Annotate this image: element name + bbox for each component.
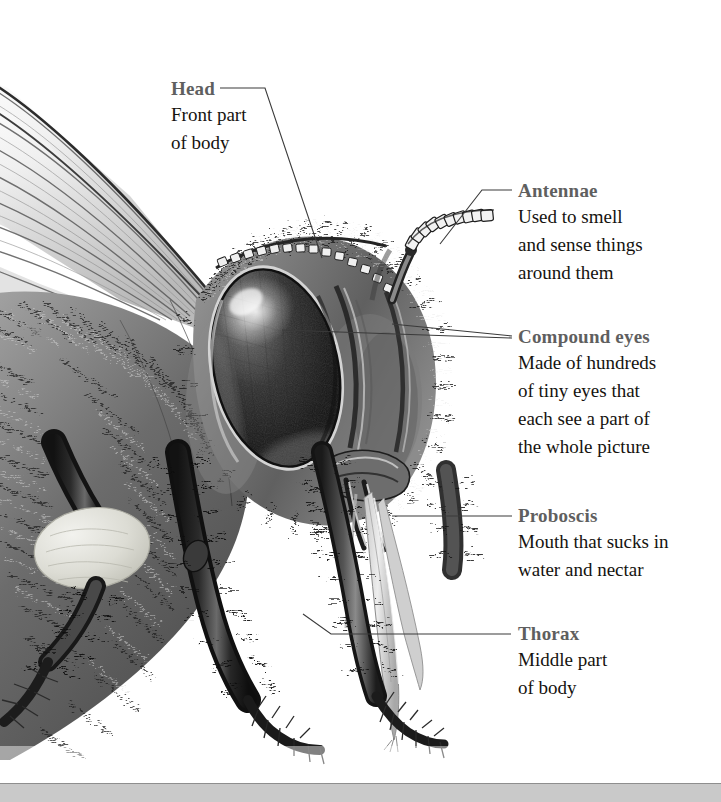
callout-thorax-line-2: of body [518, 674, 607, 702]
callout-proboscis-line-1: Mouth that sucks in [518, 528, 668, 556]
callout-compound-eyes-line-4: the whole picture [518, 433, 656, 461]
callout-head: Head Front part of body [171, 76, 246, 157]
callout-proboscis: Proboscis Mouth that sucks in water and … [518, 503, 668, 584]
bee-drawing-group [0, 66, 500, 782]
diagram-page: Head Front part of body Antennae Used to… [0, 0, 721, 802]
callout-proboscis-heading: Proboscis [518, 503, 668, 528]
callout-head-line-2: of body [171, 129, 246, 157]
callout-head-line-1: Front part [171, 101, 246, 129]
callout-proboscis-body: Mouth that sucks in water and nectar [518, 528, 668, 584]
callout-compound-eyes-heading: Compound eyes [518, 324, 656, 349]
callout-proboscis-line-2: water and nectar [518, 556, 668, 584]
callout-antennae-heading: Antennae [518, 178, 643, 203]
bee-head-illustration [0, 0, 500, 782]
callout-thorax-heading: Thorax [518, 621, 607, 646]
callout-antennae: Antennae Used to smell and sense things … [518, 178, 643, 287]
callout-compound-eyes-line-3: each see a part of [518, 405, 656, 433]
callout-thorax-body: Middle part of body [518, 646, 607, 702]
callout-compound-eyes-body: Made of hundreds of tiny eyes that each … [518, 349, 656, 461]
callout-compound-eyes: Compound eyes Made of hundreds of tiny e… [518, 324, 656, 461]
rear-leg-stub [424, 470, 479, 570]
callout-thorax: Thorax Middle part of body [518, 621, 607, 702]
callout-compound-eyes-line-1: Made of hundreds [518, 349, 656, 377]
callout-antennae-line-1: Used to smell [518, 203, 643, 231]
callout-antennae-body: Used to smell and sense things around th… [518, 203, 643, 287]
callout-head-body: Front part of body [171, 101, 246, 157]
callout-compound-eyes-line-2: of tiny eyes that [518, 377, 656, 405]
callout-head-heading: Head [171, 76, 246, 101]
callout-thorax-line-1: Middle part [518, 646, 607, 674]
antenna-segments [405, 209, 494, 251]
footer-band [0, 783, 721, 802]
callout-antennae-line-3: around them [518, 259, 643, 287]
callout-antennae-line-2: and sense things [518, 231, 643, 259]
